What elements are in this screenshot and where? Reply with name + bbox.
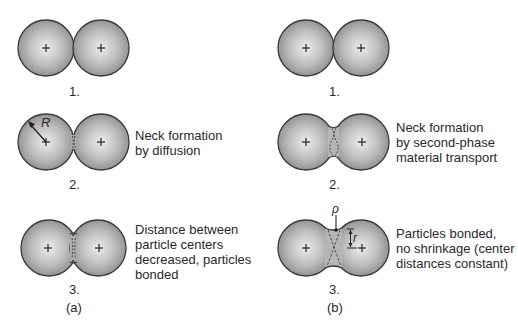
desc-line: no shrinkage (center xyxy=(396,241,515,256)
desc-line: by second-phase xyxy=(396,135,497,150)
panel-a-step2-description: Neck formation by diffusion xyxy=(135,128,222,158)
desc-line: Neck formation xyxy=(396,120,497,135)
panel-b-step3-number: 3. xyxy=(329,282,340,297)
panel-b-step1-particles xyxy=(278,20,389,76)
desc-line: by diffusion xyxy=(135,143,222,158)
panel-b-step2-description: Neck formation by second-phase material … xyxy=(396,120,497,165)
desc-line: distances constant) xyxy=(396,256,515,271)
desc-line: Neck formation xyxy=(135,128,222,143)
panel-b-step1-number: 1. xyxy=(329,84,340,99)
desc-line: bonded xyxy=(135,267,251,282)
panel-a-step3-number: 3. xyxy=(69,282,80,297)
panel-b-step2-number: 2. xyxy=(329,177,340,192)
panel-a-step1-number: 1. xyxy=(69,84,80,99)
panel-b-label: (b) xyxy=(327,300,343,315)
panel-a-label: (a) xyxy=(66,300,82,315)
panel-a-step2-number: 2. xyxy=(69,177,80,192)
panel-a-step1-particles xyxy=(18,20,129,76)
radius-symbol: R xyxy=(41,115,50,130)
rho-symbol: ρ xyxy=(332,202,339,217)
desc-line: Particles bonded, xyxy=(396,226,515,241)
desc-line: decreased, particles xyxy=(135,252,251,267)
panel-a-step3-description: Distance between particle centers decrea… xyxy=(135,222,251,282)
panel-b-step3-description: Particles bonded, no shrinkage (center d… xyxy=(396,226,515,271)
desc-line: material transport xyxy=(396,150,497,165)
desc-line: Distance between xyxy=(135,222,251,237)
panel-b-step3-particles xyxy=(278,215,389,276)
panel-a-step2-particles xyxy=(18,114,129,170)
r-symbol: r xyxy=(353,231,357,246)
desc-line: particle centers xyxy=(135,237,251,252)
panel-b-step2-particles xyxy=(278,114,389,170)
panel-a-step3-particles xyxy=(21,220,126,276)
